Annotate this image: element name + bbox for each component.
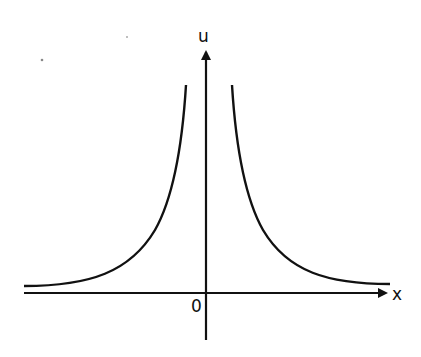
plot-canvas xyxy=(0,0,421,357)
u-axis-label: u xyxy=(198,28,209,45)
speck xyxy=(126,36,128,38)
curve-right-branch xyxy=(232,85,390,284)
origin-label: 0 xyxy=(191,298,202,315)
x-axis-label: x xyxy=(392,286,402,303)
speck xyxy=(41,59,44,62)
curve-left-branch xyxy=(24,85,186,286)
